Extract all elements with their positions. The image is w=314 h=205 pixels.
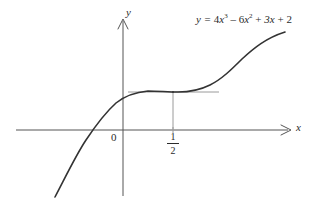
y-axis-label: y (126, 7, 131, 18)
origin-label: 0 (111, 132, 117, 143)
equation-term2-exponent: 2 (249, 12, 253, 20)
fraction-denominator: 2 (165, 145, 181, 156)
equation-op2: + (255, 13, 261, 25)
plot-canvas (0, 0, 314, 205)
x-tick-label-one-half: 1 2 (165, 132, 181, 156)
x-axis-label: x (296, 122, 301, 133)
equation-label: y = 4x3 – 6x2 + 3x + 2 (196, 14, 292, 25)
equation-op1: – (230, 13, 236, 25)
fraction-numerator: 1 (165, 132, 181, 142)
equation-term1-exponent: 3 (224, 12, 228, 20)
equation-term3: 3x (264, 13, 274, 25)
fraction-bar (167, 143, 179, 144)
inflection-point-marker (172, 91, 174, 93)
equation-term4: 2 (286, 13, 292, 25)
cubic-function-graph-figure: y = 4x3 – 6x2 + 3x + 2 y x 0 1 2 (0, 0, 314, 205)
equation-op3: + (277, 13, 283, 25)
cubic-curve (55, 32, 285, 197)
equation-lhs: y = (196, 13, 211, 25)
